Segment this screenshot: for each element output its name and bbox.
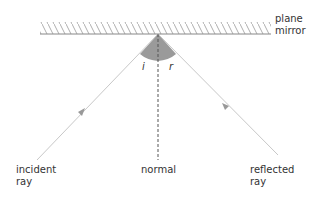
- normal-label: normal: [141, 164, 176, 176]
- plane-mirror: [40, 22, 271, 34]
- incident-ray-label: incident ray: [16, 164, 56, 188]
- mirror-label: plane mirror: [275, 13, 306, 37]
- incident-ray: [37, 34, 158, 160]
- reflected-ray: [158, 34, 278, 155]
- angle-r-label: r: [169, 61, 173, 73]
- reflected-ray-label: reflected ray: [250, 164, 294, 188]
- incident-arrow-icon: [78, 108, 85, 116]
- angle-i-label: i: [142, 61, 145, 73]
